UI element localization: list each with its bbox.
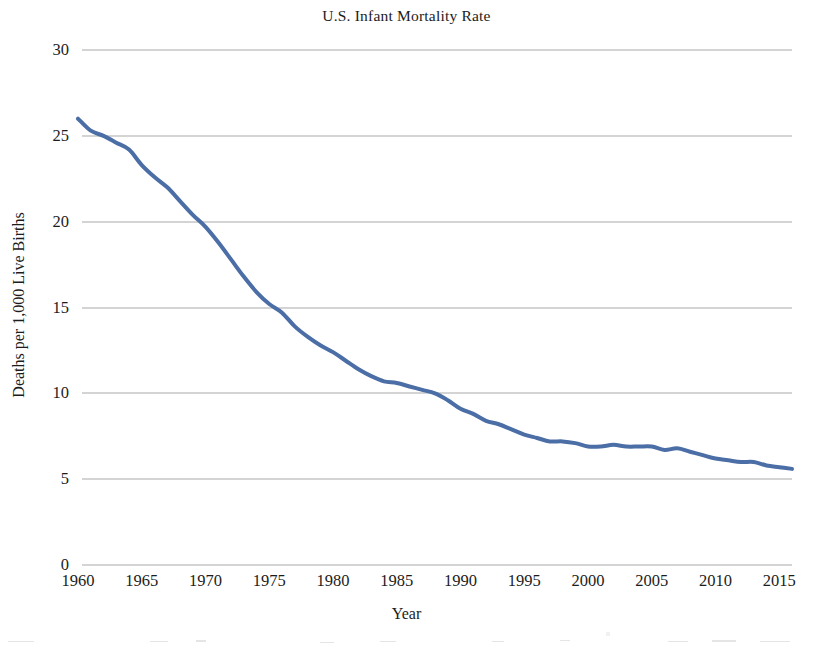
x-tick-label-1995: 1995: [508, 571, 541, 591]
y-tick-label-10: 10: [53, 383, 70, 403]
x-tick-label-1975: 1975: [253, 571, 286, 591]
scan-artifact: [8, 641, 34, 642]
y-axis-title: Deaths per 1,000 Live Births: [10, 175, 28, 435]
x-tick-label-2010: 2010: [699, 571, 732, 591]
scan-artifact: [760, 641, 790, 642]
data-series-group: [78, 50, 792, 565]
x-tick-label-2000: 2000: [572, 571, 605, 591]
x-tick-label-1960: 1960: [62, 571, 95, 591]
scan-artifact: [560, 640, 570, 641]
scan-artifact: [492, 641, 504, 642]
x-tick-label-1990: 1990: [444, 571, 477, 591]
line-series-infant-mortality: [78, 119, 792, 469]
x-tick-label-1965: 1965: [125, 571, 158, 591]
chart-title: U.S. Infant Mortality Rate: [0, 7, 813, 25]
y-tick-label-25: 25: [53, 126, 70, 146]
x-tick-label-2005: 2005: [635, 571, 668, 591]
x-tick-label-1970: 1970: [189, 571, 222, 591]
y-tick-label-15: 15: [53, 298, 70, 318]
chart-figure: U.S. Infant Mortality Rate Deaths per 1,…: [0, 0, 813, 647]
scan-artifact: [712, 640, 736, 642]
x-axis-title: Year: [0, 605, 813, 623]
scan-artifact: [606, 632, 610, 636]
scan-artifact: [196, 640, 206, 642]
y-tick-label-5: 5: [61, 469, 69, 489]
scan-artifact: [380, 641, 396, 642]
plot-area: 051015202530 196019651970197519801985199…: [78, 50, 792, 565]
y-tick-label-20: 20: [53, 212, 70, 232]
x-tick-label-1980: 1980: [317, 571, 350, 591]
scan-artifact: [150, 641, 168, 642]
scan-artifact: [320, 642, 334, 643]
scan-artifact: [668, 641, 688, 642]
x-tick-label-2015: 2015: [763, 571, 796, 591]
y-tick-label-30: 30: [53, 40, 70, 60]
x-tick-label-1985: 1985: [380, 571, 413, 591]
